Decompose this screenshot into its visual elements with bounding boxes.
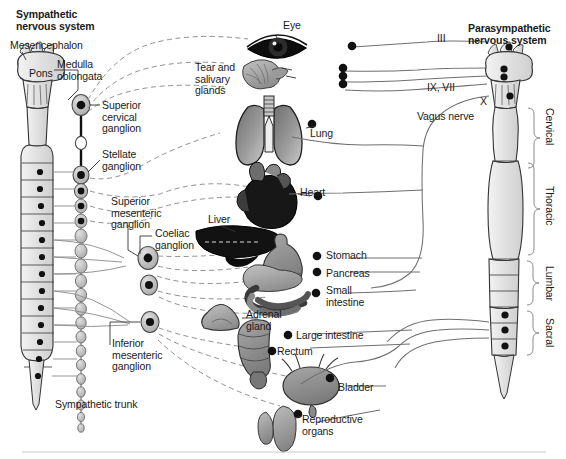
- label-region-cervical: Cervical: [543, 108, 555, 145]
- salivary-glands-organ: [243, 60, 288, 89]
- label-inferior-mesenteric-ganglion: Inferior mesenteric ganglion: [112, 338, 162, 373]
- stellate-ganglion-marker: [73, 166, 89, 184]
- label-cranial-nerve-iii: III: [437, 33, 445, 45]
- sympathetic-cns: [18, 42, 65, 410]
- terminal-ganglia-markers: [268, 42, 357, 419]
- label-coeliac-ganglion: Coeliac ganglion: [155, 228, 194, 251]
- prevertebral-ganglia: [110, 225, 159, 345]
- superior-mesenteric-ganglion-marker: [140, 275, 157, 295]
- adrenal-gland-organ: [202, 304, 239, 330]
- label-cranial-nerves-ix-vii: IX, VII: [427, 82, 455, 94]
- label-medulla-oblongata: Medulla oblongata: [57, 59, 102, 82]
- label-lung: Lung: [310, 128, 333, 140]
- label-region-thoracic: Thoracic: [543, 186, 555, 225]
- label-liver: Liver: [208, 214, 230, 226]
- parasympathetic-title: Parasympathetic nervous system: [468, 22, 551, 46]
- label-superior-cervical-ganglion: Superior cervical ganglion: [102, 100, 141, 135]
- label-tear-salivary-glands: Tear and salivary glands: [195, 62, 235, 97]
- lung-organ: [236, 96, 302, 165]
- label-vagus-nerve: Vagus nerve: [417, 111, 474, 123]
- label-stellate-ganglion: Stellate ganglion: [102, 149, 141, 172]
- label-sympathetic-trunk: Sympathetic trunk: [55, 399, 137, 411]
- label-mesencephalon: Mesencephalon: [10, 40, 83, 52]
- sympathetic-trunk-chain: [52, 95, 130, 433]
- label-pons: Pons: [29, 68, 53, 80]
- heart-organ: [237, 162, 297, 228]
- label-rectum: Rectum: [277, 346, 313, 358]
- reproductive-organs: [258, 406, 296, 452]
- sympathetic-title: Sympathetic nervous system: [16, 8, 95, 32]
- spinal-region-brackets: [527, 108, 540, 355]
- label-bladder: Bladder: [338, 382, 374, 394]
- autonomic-nervous-system-figure: Sympathetic nervous system Parasympathet…: [0, 0, 566, 459]
- label-cranial-nerve-x: X: [480, 96, 487, 108]
- label-pancreas: Pancreas: [326, 268, 370, 280]
- label-adrenal-gland: Adrenal gland: [246, 309, 282, 332]
- label-stomach: Stomach: [326, 250, 367, 262]
- label-heart: Heart: [300, 187, 325, 199]
- inferior-mesenteric-ganglion-marker: [141, 312, 159, 333]
- bladder-organ: [282, 354, 339, 418]
- label-region-lumbar: Lumbar: [543, 266, 555, 301]
- label-eye: Eye: [283, 20, 301, 32]
- label-region-sacral: Sacral: [543, 318, 555, 347]
- label-superior-mesenteric-ganglion: Superior mesenteric ganglion: [111, 196, 161, 231]
- parasympathetic-cns: [486, 42, 533, 399]
- label-large-intestine: Large intestine: [296, 330, 363, 342]
- parasympathetic-fibres: [289, 41, 489, 422]
- label-small-intestine: Small intestine: [326, 285, 364, 308]
- superior-cervical-ganglion-marker: [72, 95, 90, 116]
- label-reproductive-organs: Reproductive organs: [302, 414, 363, 437]
